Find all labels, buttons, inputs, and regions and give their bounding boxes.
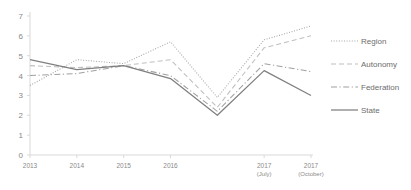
x-tick-label: 2014 xyxy=(70,162,85,169)
legend-label-autonomy: Autonomy xyxy=(361,60,397,69)
y-tick-label: 4 xyxy=(19,72,24,81)
y-tick-label: 2 xyxy=(19,111,24,120)
x-tick-label: 2015 xyxy=(116,162,131,169)
x-tick-sublabel: (July) xyxy=(257,171,272,177)
x-tick-sublabel: (October) xyxy=(298,171,323,177)
series-lines xyxy=(30,26,311,115)
series-line-autonomy xyxy=(30,36,311,107)
y-tick-label: 1 xyxy=(19,131,24,140)
x-tick-label: 2016 xyxy=(163,162,178,169)
y-tick-label: 0 xyxy=(19,151,24,160)
y-tick-label: 7 xyxy=(19,12,24,21)
series-line-state xyxy=(30,60,311,116)
y-tick-label: 5 xyxy=(19,52,24,61)
x-tick-label: 2013 xyxy=(23,162,38,169)
series-line-federation xyxy=(30,64,311,112)
series-line-region xyxy=(30,26,311,97)
x-tick-label: 2017 xyxy=(304,162,319,169)
line-chart: 01234567 20132014201520162017(July)2017(… xyxy=(0,0,411,190)
y-axis: 01234567 xyxy=(19,12,30,160)
legend-label-region: Region xyxy=(361,37,386,46)
x-axis: 20132014201520162017(July)2017(October) xyxy=(23,155,324,177)
y-tick-label: 3 xyxy=(19,91,24,100)
x-tick-label: 2017 xyxy=(257,162,272,169)
legend-label-federation: Federation xyxy=(361,83,399,92)
y-tick-label: 6 xyxy=(19,32,24,41)
chart-legend: RegionAutonomyFederationState xyxy=(331,37,399,115)
chart-canvas: 01234567 20132014201520162017(July)2017(… xyxy=(0,0,411,190)
legend-label-state: State xyxy=(361,106,380,115)
